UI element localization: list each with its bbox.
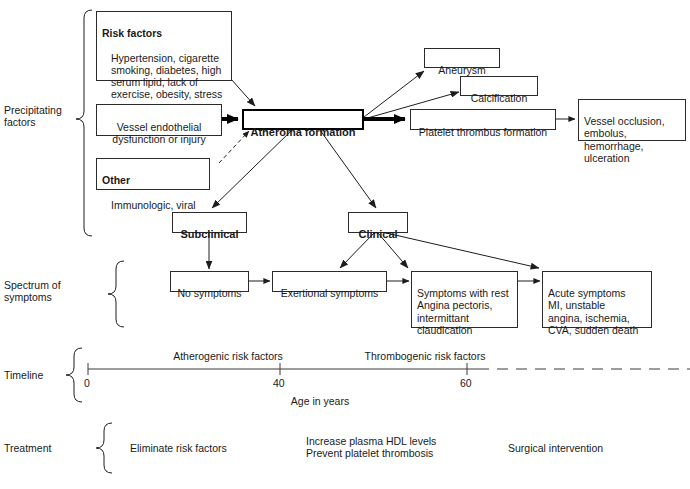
node-platelet-thrombus-formation[interactable]: Platelet thrombus formation bbox=[410, 109, 556, 130]
node-vessel-occlusion[interactable]: Vessel occlusion, embolus, hemorrhage, u… bbox=[578, 99, 686, 141]
platelet-thrombus-label: Platelet thrombus formation bbox=[419, 126, 547, 138]
timeline-tick-label-0: 0 bbox=[84, 377, 90, 389]
other-heading: Other bbox=[102, 174, 204, 186]
timeline-band-atherogenic: Atherogenic risk factors bbox=[128, 350, 328, 362]
node-symptoms-with-rest[interactable]: Symptoms with rest Angina pectoris, inte… bbox=[411, 271, 518, 328]
timeline-band-thrombogenic: Thrombogenic risk factors bbox=[330, 350, 520, 362]
node-acute-symptoms[interactable]: Acute symptoms MI, unstable angina, isch… bbox=[542, 271, 652, 328]
row-label-treatment: Treatment bbox=[4, 442, 94, 454]
node-clinical[interactable]: Clinical bbox=[348, 212, 408, 233]
figure-canvas: Precipitating factors Spectrum of sympto… bbox=[0, 0, 690, 489]
exertional-symptoms-label: Exertional symptoms bbox=[281, 287, 378, 299]
risk-factors-heading: Risk factors bbox=[102, 27, 226, 39]
aneurysm-label: Aneurysm bbox=[438, 64, 485, 76]
edge-atheroma-to-clinical bbox=[320, 130, 376, 208]
node-other[interactable]: Other Immunologic, viral bbox=[96, 158, 210, 190]
node-no-symptoms[interactable]: No symptoms bbox=[170, 271, 249, 292]
vessel-endothelial-label: Vessel endothelial dysfunction or injury bbox=[112, 121, 205, 145]
timeline-tick-label-60: 60 bbox=[460, 377, 472, 389]
treatment-item-surgical-intervention: Surgical intervention bbox=[508, 442, 678, 454]
node-vessel-endothelial-dysfunction[interactable]: Vessel endothelial dysfunction or injury bbox=[96, 104, 222, 136]
subclinical-label: Subclinical bbox=[180, 228, 238, 240]
brace-treatment bbox=[96, 423, 112, 473]
edge-other-to-atheroma bbox=[219, 131, 249, 163]
node-subclinical[interactable]: Subclinical bbox=[172, 212, 247, 233]
timeline-tick-label-40: 40 bbox=[273, 377, 285, 389]
node-aneurysm[interactable]: Aneurysm bbox=[424, 48, 500, 68]
other-body: Immunologic, viral bbox=[102, 199, 204, 211]
risk-factors-body: Hypertension, cigarette smoking, diabete… bbox=[102, 52, 226, 101]
node-calcification[interactable]: Calcification bbox=[460, 76, 538, 96]
acute-symptoms-label: Acute symptoms MI, unstable angina, isch… bbox=[548, 287, 638, 336]
edge-risk-to-atheroma bbox=[231, 79, 255, 106]
timeline-axis-title: Age in years bbox=[250, 395, 390, 407]
row-label-spectrum-of-symptoms: Spectrum of symptoms bbox=[4, 279, 112, 304]
atheroma-formation-label: Atheroma formation bbox=[250, 126, 355, 138]
node-risk-factors[interactable]: Risk factors Hypertension, cigarette smo… bbox=[96, 11, 232, 81]
node-atheroma-formation[interactable]: Atheroma formation bbox=[242, 109, 364, 130]
edge-clinical-to-acute bbox=[382, 232, 539, 268]
row-label-precipitating-factors: Precipitating factors bbox=[4, 104, 90, 129]
treatment-item-increase-hdl: Increase plasma HDL levels Prevent plate… bbox=[306, 435, 506, 460]
calcification-label: Calcification bbox=[471, 92, 528, 104]
no-symptoms-label: No symptoms bbox=[177, 287, 241, 299]
row-label-timeline: Timeline bbox=[4, 369, 84, 381]
clinical-label: Clinical bbox=[358, 228, 397, 240]
treatment-item-eliminate-risk-factors: Eliminate risk factors bbox=[130, 442, 310, 454]
node-exertional-symptoms[interactable]: Exertional symptoms bbox=[272, 271, 387, 292]
edge-atheroma-to-subclinical bbox=[212, 130, 292, 208]
